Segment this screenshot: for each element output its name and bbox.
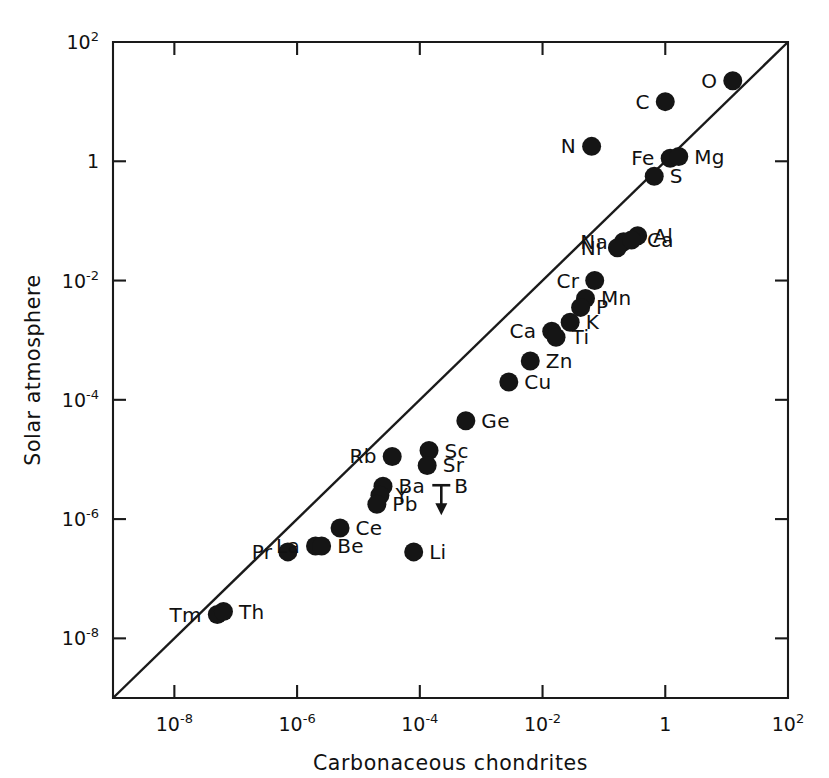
y-tick-label-4: 10-6 <box>62 506 99 530</box>
x-tick-label-2: 10-4 <box>401 711 438 735</box>
point-label-Pr: Pr <box>252 540 273 564</box>
one-to-one-reference-line <box>113 42 788 698</box>
y-axis-ticks <box>113 161 788 638</box>
point-label-Ca: Ca <box>509 319 536 343</box>
data-point-C <box>656 92 675 111</box>
x-axis-tick-labels: 10-810-610-410-21102Carbonaceous chondri… <box>156 711 804 775</box>
point-label-O: O <box>701 69 717 93</box>
point-label-Li: Li <box>429 540 446 564</box>
data-point-Li <box>404 542 423 561</box>
scatter-plot-figure: 10-810-610-410-21102Carbonaceous chondri… <box>0 0 829 778</box>
data-point-Th <box>214 602 233 621</box>
data-point-N <box>582 137 601 156</box>
point-label-Tm: Tm <box>169 603 202 627</box>
y-tick-label-5: 10-8 <box>62 625 99 649</box>
point-label-Fe: Fe <box>631 146 654 170</box>
upper-limit-markers <box>432 485 450 515</box>
point-label-C: C <box>636 90 650 114</box>
data-point-labels: OCNFeMgSNaNiAlCaCrMnPKCaTiZnCuGeScSrRbBa… <box>169 69 725 627</box>
point-label-Cu: Cu <box>524 370 551 394</box>
point-label-B: B <box>454 474 468 498</box>
solar-vs-chondrite-scatter-plot: 10-810-610-410-21102Carbonaceous chondri… <box>0 0 829 778</box>
point-label-Ti: Ti <box>571 325 590 349</box>
point-label-Pb: Pb <box>392 492 417 516</box>
data-point-Ca <box>622 230 641 249</box>
point-label-La: La <box>276 534 300 558</box>
x-tick-label-3: 10-2 <box>524 711 561 735</box>
data-point-Ge <box>456 411 475 430</box>
point-label-Th: Th <box>238 600 264 624</box>
limit-arrowhead-B <box>435 503 447 515</box>
x-tick-label-4: 1 <box>659 713 671 735</box>
y-tick-label-0: 102 <box>67 29 99 53</box>
x-tick-label-5: 102 <box>772 711 804 735</box>
point-label-Ge: Ge <box>481 409 509 433</box>
x-axis-title: Carbonaceous chondrites <box>313 751 588 775</box>
point-label-N: N <box>561 134 576 158</box>
point-label-Ca: Ca <box>647 228 674 252</box>
point-label-Mg: Mg <box>694 145 725 169</box>
point-label-Be: Be <box>337 534 364 558</box>
y-tick-label-1: 1 <box>87 150 99 172</box>
point-label-Ni: Ni <box>581 236 602 260</box>
data-point-Rb <box>383 447 402 466</box>
data-point-Cu <box>499 372 518 391</box>
point-label-Rb: Rb <box>350 444 377 468</box>
y-axis-title: Solar atmosphere <box>21 274 45 465</box>
data-point-Mg <box>669 147 688 166</box>
data-point-Ti <box>547 328 566 347</box>
data-point-O <box>723 71 742 90</box>
reference-line-1to1 <box>113 42 788 698</box>
point-label-S: S <box>670 164 683 188</box>
data-point-Be <box>312 536 331 555</box>
y-axis-tick-labels: 102110-210-410-610-8Solar atmosphere <box>21 29 99 649</box>
point-label-Cr: Cr <box>556 269 579 293</box>
x-tick-label-0: 10-8 <box>156 711 193 735</box>
data-point-Pb <box>367 495 386 514</box>
data-point-Zn <box>521 352 540 371</box>
data-point-Sr <box>418 456 437 475</box>
x-tick-label-1: 10-6 <box>279 711 316 735</box>
y-tick-label-2: 10-2 <box>62 268 99 292</box>
y-tick-label-3: 10-4 <box>62 387 99 411</box>
